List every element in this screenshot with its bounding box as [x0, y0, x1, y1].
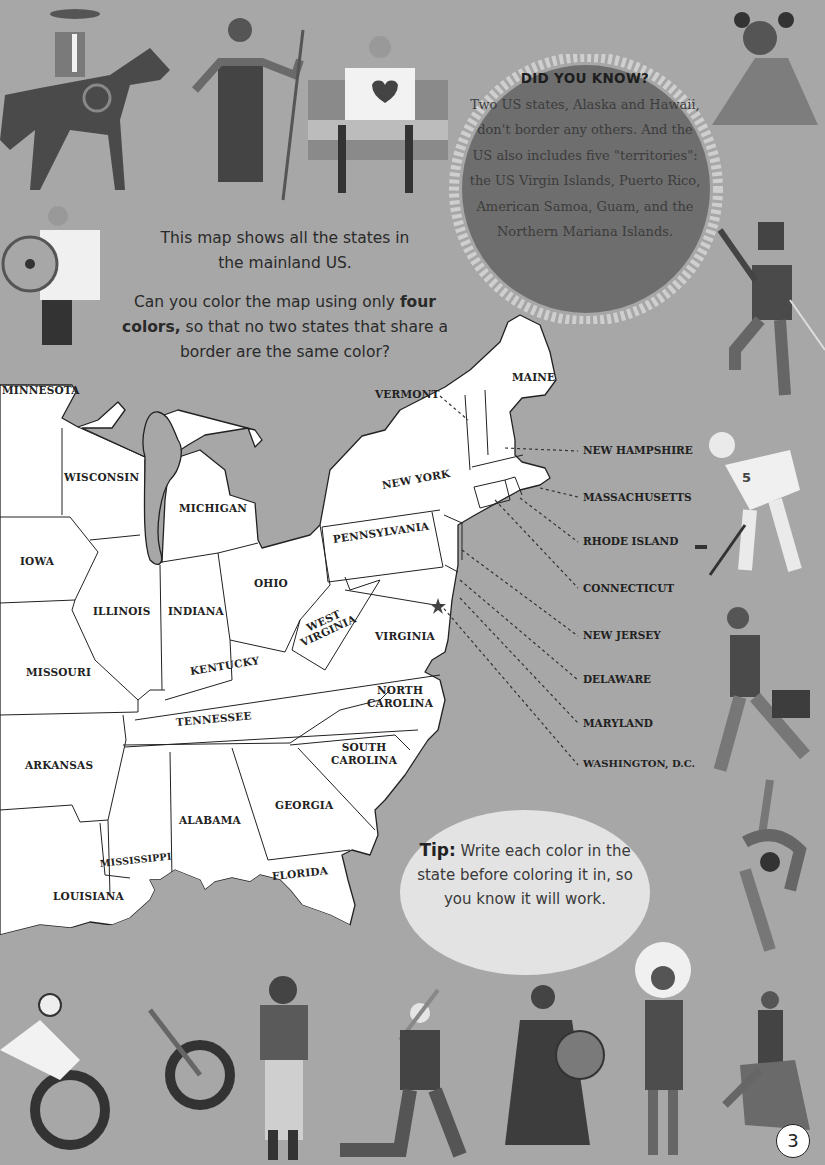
state-label-iowa: IOWA	[20, 555, 54, 567]
tip-text: Tip: Write each color in the state befor…	[412, 838, 638, 911]
did-you-know-body: Two US states, Alaska and Hawaii, don't …	[460, 92, 710, 245]
state-label-alabama: ALABAMA	[179, 814, 241, 826]
intro-line: This map shows all the states in the mai…	[120, 226, 450, 276]
state-label-south-carolina: SOUTH CAROLINA	[328, 741, 400, 767]
state-label-michigan: MICHIGAN	[179, 502, 247, 514]
state-label-louisiana: LOUISIANA	[53, 890, 124, 902]
callout-connecticut: CONNECTICUT	[583, 582, 674, 594]
state-label-ohio: OHIO	[254, 577, 288, 589]
state-label-vermont: VERMONT	[375, 388, 439, 400]
intro-text: This map shows all the states in the mai…	[120, 226, 450, 379]
state-label-arkansas: ARKANSAS	[25, 759, 93, 771]
callout-massachusetts: MASSACHUSETTS	[583, 491, 692, 503]
callout-rhode-island: RHODE ISLAND	[583, 535, 678, 547]
intro-question: Can you color the map using only four co…	[120, 290, 450, 365]
callout-delaware: DELAWARE	[583, 673, 651, 685]
callout-new-jersey: NEW JERSEY	[583, 629, 661, 641]
page-number: 3	[776, 1124, 810, 1158]
state-label-missouri: MISSOURI	[26, 666, 91, 678]
did-you-know-text: DID YOU KNOW? Two US states, Alaska and …	[460, 66, 710, 245]
callout-maryland: MARYLAND	[583, 717, 653, 729]
state-label-virginia: VIRGINIA	[375, 630, 435, 642]
state-label-maine: MAINE	[512, 371, 555, 383]
state-label-georgia: GEORGIA	[275, 799, 333, 811]
state-label-wisconsin: WISCONSIN	[64, 471, 139, 483]
state-label-indiana: INDIANA	[168, 605, 224, 617]
state-label-minnesota: MINNESOTA	[2, 384, 80, 396]
did-you-know-title: DID YOU KNOW?	[460, 66, 710, 92]
state-label-illinois: ILLINOIS	[93, 605, 150, 617]
tip-label: Tip:	[419, 840, 455, 860]
callout-new-hampshire: NEW HAMPSHIRE	[583, 444, 693, 456]
state-label-north-carolina: NORTH CAROLINA	[364, 684, 436, 710]
callout-washington-dc: WASHINGTON, D.C.	[583, 758, 695, 769]
